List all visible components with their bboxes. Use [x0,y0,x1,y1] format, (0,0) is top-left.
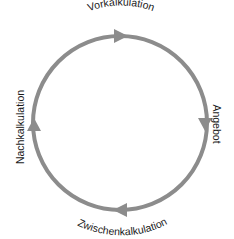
cycle-ring [33,36,207,210]
stage-label-top-path: Vorkalkulation [86,0,157,13]
arrow-down-icon [198,118,212,131]
stage-label-bottom-path: Zwischenkalkulation [76,215,169,237]
stage-label-bottom: Zwischenkalkulation [76,215,169,237]
stage-label-left: Nachkalkulation [14,90,26,164]
arrow-left-icon [113,203,127,217]
arrow-up-icon [27,118,41,131]
stage-label-right: Angebot [211,104,223,143]
cycle-diagram-svg: Vorkalkulation Angebot Zwischenkalkulati… [0,0,234,239]
arrow-right-icon [114,29,128,43]
stage-label-top: Vorkalkulation [86,0,157,13]
cycle-diagram: Vorkalkulation Angebot Zwischenkalkulati… [0,0,234,239]
